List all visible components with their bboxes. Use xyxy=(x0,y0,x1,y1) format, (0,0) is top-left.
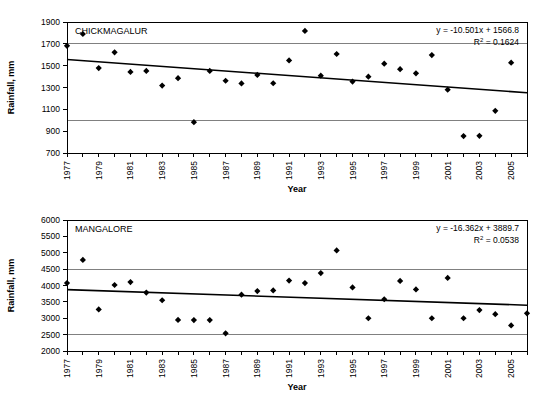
data-point-marker xyxy=(508,60,514,66)
x-tick-label: 1991 xyxy=(284,359,294,378)
data-point-marker xyxy=(445,275,451,281)
series-title: MANGALORE xyxy=(75,224,133,234)
y-tick-label: 1300 xyxy=(41,83,60,93)
data-point-marker xyxy=(207,317,213,323)
y-tick-label: 6000 xyxy=(41,215,60,225)
data-point-marker xyxy=(476,307,482,313)
x-tick-label: 1993 xyxy=(316,359,326,378)
data-point-marker xyxy=(365,315,371,321)
x-tick-label: 1995 xyxy=(348,359,358,378)
data-point-marker xyxy=(286,277,292,283)
data-point-marker xyxy=(397,66,403,72)
trendline-r2: R2 = 0.0538 xyxy=(474,235,519,245)
data-point-marker xyxy=(492,311,498,317)
x-tick-label: 1979 xyxy=(94,359,104,378)
x-tick-label: 1981 xyxy=(125,161,135,180)
x-tick-label: 1987 xyxy=(221,359,231,378)
x-tick-label: 1991 xyxy=(284,161,294,180)
rainfall-trend-figure: 7009001100130015001700190019771979198119… xyxy=(0,0,546,396)
plot-area-border xyxy=(67,220,527,351)
data-point-marker xyxy=(334,51,340,57)
data-point-marker xyxy=(524,310,530,316)
data-point-marker xyxy=(286,57,292,63)
x-tick-label: 1989 xyxy=(252,161,262,180)
data-point-marker xyxy=(80,257,86,263)
data-point-marker xyxy=(460,315,466,321)
y-tick-label: 5000 xyxy=(41,248,60,258)
data-point-marker xyxy=(175,75,181,81)
data-point-marker xyxy=(397,278,403,284)
x-tick-label: 1999 xyxy=(411,161,421,180)
x-tick-label: 1995 xyxy=(348,161,358,180)
x-axis-label: Year xyxy=(287,382,307,392)
chart-chickmagalur: 7009001100130015001700190019771979198119… xyxy=(0,0,546,198)
data-point-marker xyxy=(254,288,260,294)
x-tick-label: 2001 xyxy=(443,359,453,378)
x-tick-label: 1985 xyxy=(189,161,199,180)
y-tick-label: 4500 xyxy=(41,264,60,274)
x-tick-label: 1993 xyxy=(316,161,326,180)
data-point-marker xyxy=(223,330,229,336)
y-axis-label: Rainfall, mm xyxy=(6,61,16,115)
x-axis-label: Year xyxy=(287,184,307,194)
y-tick-label: 3000 xyxy=(41,313,60,323)
x-tick-label: 1983 xyxy=(157,161,167,180)
trendline xyxy=(67,290,527,306)
x-tick-label: 1985 xyxy=(189,359,199,378)
data-point-marker xyxy=(96,65,102,71)
data-point-marker xyxy=(175,317,181,323)
x-tick-label: 1979 xyxy=(94,161,104,180)
data-point-marker xyxy=(318,270,324,276)
series-title: CHICKMAGALUR xyxy=(75,26,148,36)
data-point-marker xyxy=(238,80,244,86)
y-axis-label: Rainfall, mm xyxy=(6,259,16,313)
data-point-marker xyxy=(191,317,197,323)
x-tick-label: 1981 xyxy=(125,359,135,378)
trendline-equation: y = -10.501x + 1566.8 xyxy=(436,25,519,35)
data-point-marker xyxy=(127,69,133,75)
data-point-marker xyxy=(159,82,165,88)
trendline-equation: y = -16.362x + 3889.7 xyxy=(436,223,519,233)
data-point-marker xyxy=(143,289,149,295)
x-tick-label: 2001 xyxy=(443,161,453,180)
data-point-marker xyxy=(207,68,213,74)
y-tick-label: 700 xyxy=(46,148,60,158)
data-point-marker xyxy=(492,108,498,114)
y-tick-label: 2000 xyxy=(41,346,60,356)
trendline-r2: R2 = 0.1624 xyxy=(474,37,519,47)
x-tick-label: 2003 xyxy=(474,161,484,180)
y-tick-label: 5500 xyxy=(41,231,60,241)
x-tick-label: 2005 xyxy=(506,161,516,180)
data-point-marker xyxy=(127,279,133,285)
data-point-marker xyxy=(270,80,276,86)
data-point-marker xyxy=(111,282,117,288)
chart-mangalore: 2000250030003500400045005000550060001977… xyxy=(0,198,546,396)
x-tick-label: 1999 xyxy=(411,359,421,378)
x-tick-label: 1987 xyxy=(221,161,231,180)
data-point-marker xyxy=(334,247,340,253)
mangalore-plot-svg: 2000250030003500400045005000550060001977… xyxy=(0,198,546,396)
x-tick-label: 1989 xyxy=(252,359,262,378)
y-tick-label: 3500 xyxy=(41,297,60,307)
data-point-marker xyxy=(96,306,102,312)
data-point-marker xyxy=(381,61,387,67)
y-tick-label: 4000 xyxy=(41,281,60,291)
data-point-marker xyxy=(476,133,482,139)
y-tick-label: 1700 xyxy=(41,39,60,49)
x-tick-label: 1983 xyxy=(157,359,167,378)
data-point-marker xyxy=(429,315,435,321)
data-point-marker xyxy=(413,286,419,292)
data-point-marker xyxy=(238,292,244,298)
data-point-marker xyxy=(381,296,387,302)
trendline xyxy=(67,60,527,93)
data-point-marker xyxy=(508,322,514,328)
x-tick-label: 1997 xyxy=(379,161,389,180)
y-tick-label: 2500 xyxy=(41,330,60,340)
y-tick-label: 1500 xyxy=(41,61,60,71)
data-point-marker xyxy=(159,297,165,303)
y-tick-label: 900 xyxy=(46,126,60,136)
chickmagalur-plot-svg: 7009001100130015001700190019771979198119… xyxy=(0,0,546,198)
x-tick-label: 2005 xyxy=(506,359,516,378)
data-point-marker xyxy=(111,49,117,55)
data-point-marker xyxy=(365,74,371,80)
